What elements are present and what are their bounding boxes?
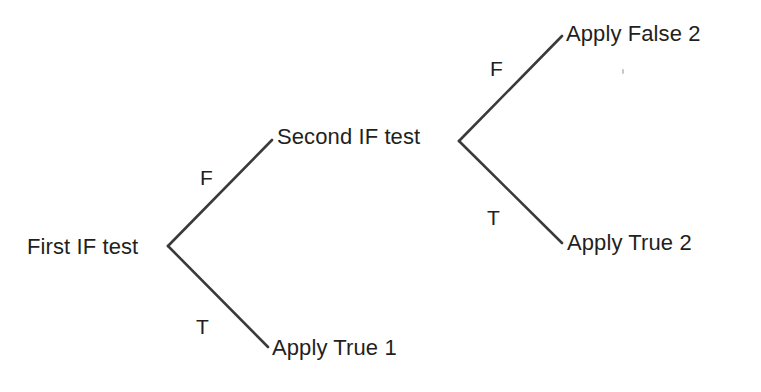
edge-first-true <box>168 246 268 347</box>
edge-label-second-false: F <box>490 58 503 79</box>
node-first-if-test: First IF test <box>27 236 138 258</box>
edge-second-false <box>459 36 562 141</box>
edge-first-false <box>168 140 272 246</box>
node-apply-false-2: Apply False 2 <box>566 23 701 45</box>
node-second-if-test: Second IF test <box>277 126 420 148</box>
edge-label-second-true: T <box>487 207 500 228</box>
edge-second-true <box>459 141 562 243</box>
scan-artifact-speck <box>622 69 624 74</box>
edge-label-first-false: F <box>200 167 213 188</box>
node-apply-true-1: Apply True 1 <box>272 337 397 359</box>
decision-tree-diagram: First IF test Second IF test Apply False… <box>0 0 761 392</box>
edge-label-first-true: T <box>196 316 209 337</box>
node-apply-true-2: Apply True 2 <box>567 232 692 254</box>
edges-layer <box>0 0 761 392</box>
